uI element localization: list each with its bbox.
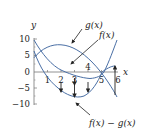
curves xyxy=(34,40,117,97)
y-tick-5: 5 xyxy=(25,50,30,60)
y-tick-10: 10 xyxy=(19,34,30,44)
y-tick-neg10: −10 xyxy=(12,99,30,109)
y-tick-neg5: −5 xyxy=(17,83,30,93)
label-f: f(x) xyxy=(98,30,115,40)
x-tick-4: 4 xyxy=(85,62,90,72)
y-tick-0: 0 xyxy=(25,67,30,77)
label-g: g(x) xyxy=(85,20,103,30)
axes xyxy=(34,38,118,105)
x-axis-label: x xyxy=(123,67,128,77)
function-difference-chart: y x 10 5 0 −5 −10 1 2 3 4 5 6 g(x) f(x) … xyxy=(0,0,144,134)
diff-leader xyxy=(76,103,90,115)
f-leader xyxy=(71,40,98,64)
label-diff: f(x) − g(x) xyxy=(88,118,136,128)
y-axis-label: y xyxy=(30,20,37,30)
curve-f xyxy=(34,40,117,79)
g-leader xyxy=(72,29,82,43)
x-tick-6: 6 xyxy=(115,75,120,85)
